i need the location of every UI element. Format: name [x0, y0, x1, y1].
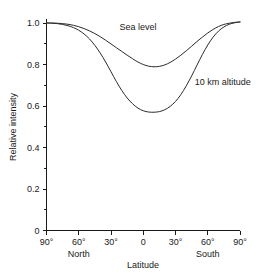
y-axis-ticks: [43, 23, 47, 231]
x-tick-label: 60°: [201, 237, 215, 247]
x-axis-ticks: [47, 231, 241, 235]
y-tick-label: 0: [34, 226, 39, 236]
x-axis-tick-labels: 90°60°30°030°60°90°: [40, 237, 248, 247]
data-curves: [47, 22, 241, 112]
x-axis-title: Latitude: [127, 260, 159, 270]
x-tick-label: 90°: [40, 237, 54, 247]
y-axis-title: Relative intensity: [8, 92, 18, 161]
series-label-10-km-altitude: 10 km altitude: [195, 77, 251, 87]
x-tick-label: 30°: [169, 237, 183, 247]
hemisphere-label: South: [196, 249, 220, 259]
y-tick-label: 0.2: [27, 184, 40, 194]
hemisphere-labels: NorthSouth: [68, 249, 220, 259]
y-tick-label: 0.8: [27, 60, 40, 70]
series-annotations: Sea level10 km altitude: [120, 22, 251, 87]
y-axis-tick-labels: 00.20.40.60.81.0: [27, 18, 40, 236]
x-tick-label: 30°: [104, 237, 118, 247]
axes-group: [47, 19, 241, 231]
y-tick-label: 0.4: [27, 143, 40, 153]
y-tick-label: 1.0: [27, 18, 40, 28]
figure-container: 00.20.40.60.81.0 90°60°30°030°60°90° Nor…: [0, 0, 264, 274]
x-tick-label: 60°: [72, 237, 86, 247]
y-tick-label: 0.6: [27, 101, 40, 111]
relative-intensity-vs-latitude-chart: 00.20.40.60.81.0 90°60°30°030°60°90° Nor…: [0, 0, 264, 274]
hemisphere-label: North: [68, 249, 90, 259]
x-tick-label: 90°: [233, 237, 247, 247]
x-tick-label: 0: [141, 237, 146, 247]
series-label-sea-level: Sea level: [120, 22, 157, 32]
curve-10-km-altitude: [47, 22, 241, 112]
